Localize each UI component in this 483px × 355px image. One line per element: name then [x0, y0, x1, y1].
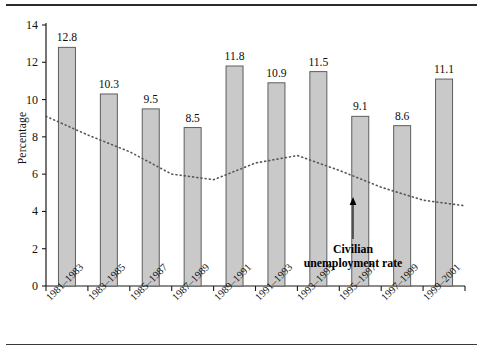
- bar-value-label: 8.6: [382, 111, 422, 123]
- bar-value-label: 9.5: [131, 94, 171, 106]
- bar-value-label: 11.8: [215, 51, 255, 63]
- bar-value-label: 10.3: [89, 79, 129, 91]
- bar-value-label: 11.1: [424, 64, 464, 76]
- figure-container: Percentage 02468101214 1981–19831983–198…: [0, 0, 483, 355]
- y-tick-label: 6: [14, 168, 38, 180]
- bar-value-label: 12.8: [47, 32, 87, 44]
- civilian-unemployment-annotation: Civilian unemployment rate: [273, 243, 433, 271]
- y-tick-label: 10: [14, 94, 38, 106]
- y-tick-label: 4: [14, 205, 38, 217]
- bar-value-label: 11.5: [298, 57, 338, 69]
- y-tick-label: 12: [14, 56, 38, 68]
- y-tick-label: 0: [14, 280, 38, 292]
- y-tick-label: 14: [14, 19, 38, 31]
- y-tick-label: 8: [14, 131, 38, 143]
- bar-value-label: 9.1: [340, 101, 380, 113]
- annotation-line-2: unemployment rate: [304, 256, 403, 270]
- bar-value-label: 10.9: [256, 68, 296, 80]
- y-tick-label: 2: [14, 243, 38, 255]
- bar-value-label: 8.5: [173, 113, 213, 125]
- annotation-line-1: Civilian: [333, 242, 373, 256]
